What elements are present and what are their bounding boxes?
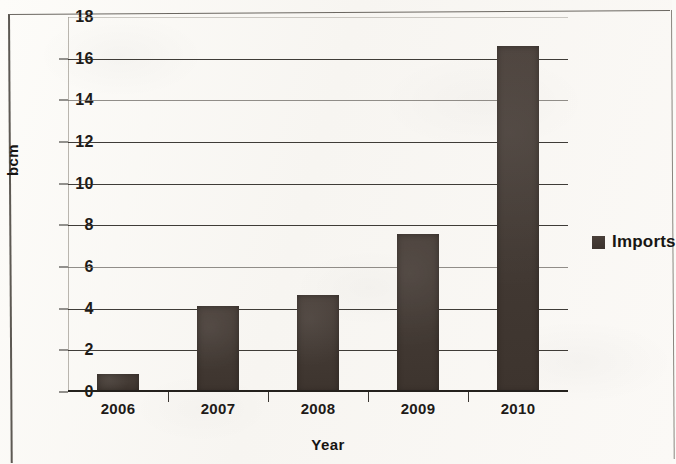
x-axis-title: Year: [268, 436, 388, 453]
x-tick-mark-2: [268, 392, 269, 402]
y-axis-line: [68, 17, 69, 392]
x-tick-label-2008: 2008: [283, 400, 353, 417]
gridline-16: [68, 59, 568, 60]
gridline-8: [68, 225, 568, 226]
gridline-12: [68, 142, 568, 143]
bar-2009: [397, 234, 439, 392]
x-tick-label-2006: 2006: [83, 400, 153, 417]
gridline-18: [68, 17, 568, 18]
bar-2007: [197, 306, 239, 392]
bar-2008: [297, 295, 339, 392]
x-axis-line: [68, 390, 568, 392]
y-axis-title: bcm: [4, 144, 21, 176]
y-tick-mark-2: [59, 350, 68, 351]
y-tick-mark-10: [59, 183, 68, 184]
legend-label-imports: Imports: [612, 232, 676, 252]
bar-2010: [497, 46, 539, 392]
x-tick-label-2009: 2009: [383, 400, 453, 417]
x-tick-label-2007: 2007: [183, 400, 253, 417]
plot-area: [68, 17, 568, 392]
y-tick-mark-6: [59, 267, 68, 268]
x-tick-label-2010: 2010: [483, 400, 553, 417]
y-tick-mark-0: [59, 392, 68, 393]
x-tick-mark-1: [168, 392, 169, 402]
gridline-10: [68, 184, 568, 185]
chart-legend: Imports: [592, 232, 676, 252]
x-tick-mark-3: [368, 392, 369, 402]
y-tick-mark-8: [59, 225, 68, 226]
y-tick-mark-14: [59, 100, 68, 101]
y-tick-mark-4: [59, 308, 68, 309]
y-tick-mark-16: [59, 58, 68, 59]
legend-swatch-imports: [592, 236, 605, 249]
x-tick-mark-4: [468, 392, 469, 402]
y-tick-mark-12: [59, 142, 68, 143]
gridline-6: [68, 267, 568, 268]
gridline-14: [68, 100, 568, 101]
